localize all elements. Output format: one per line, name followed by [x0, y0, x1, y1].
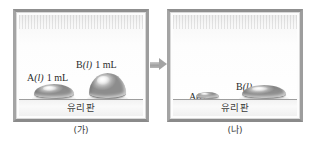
- droplet-state-a-before: (l): [34, 72, 43, 83]
- arrow-head: [159, 58, 167, 70]
- droplet-b-before: [89, 73, 126, 99]
- droplet-body: [242, 85, 286, 99]
- panel-caption-after: (나): [167, 126, 303, 135]
- droplet-body: [89, 73, 126, 99]
- droplet-body: [196, 92, 219, 99]
- droplet-b-after: [242, 85, 286, 99]
- container-top-shading-before: [19, 15, 143, 29]
- panel-before: B(l)1 mL A(l)1 mL 유리판: [13, 9, 149, 122]
- glass-plate-label-after: 유리판: [173, 103, 297, 113]
- container-frame-before: B(l)1 mL A(l)1 mL 유리판: [13, 9, 149, 122]
- evaporation-comparison-figure: B(l)1 mL A(l)1 mL 유리판 (가): [0, 0, 320, 147]
- droplet-body: [34, 84, 74, 99]
- panel-after: B(l) A(l) 유리판: [167, 9, 303, 122]
- panel-caption-before: (가): [13, 126, 149, 135]
- droplet-label-b-before: B(l)1 mL: [76, 60, 117, 70]
- droplet-volume-a-before: 1 mL: [47, 72, 68, 83]
- droplet-state-b-before: (l): [83, 59, 92, 70]
- container-frame-after: B(l) A(l) 유리판: [167, 9, 303, 122]
- droplet-label-a-before: A(l)1 mL: [27, 73, 68, 83]
- glass-plate-before: 유리판: [19, 99, 143, 116]
- droplet-a-after: [196, 92, 219, 99]
- glass-plate-label-before: 유리판: [19, 103, 143, 113]
- container-top-shading-after: [173, 15, 297, 29]
- droplet-a-before: [34, 84, 74, 99]
- droplet-volume-b-before: 1 mL: [95, 59, 116, 70]
- arrow-right-icon: [150, 58, 167, 71]
- droplet-substance-b-before: B: [76, 59, 83, 70]
- glass-plate-after: 유리판: [173, 99, 297, 116]
